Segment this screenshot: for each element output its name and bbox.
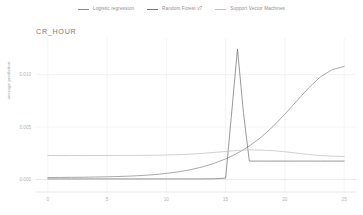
x-tick-label: 20 <box>282 197 288 202</box>
x-tick-label: 10 <box>164 197 170 202</box>
series-line-support-vector-machines <box>48 150 344 157</box>
y-tick-label: 0.000 <box>20 177 32 182</box>
y-tick-label: 0.010 <box>20 72 32 77</box>
series-line-random-forest-v7 <box>48 49 344 179</box>
y-tick-labels: 0.0000.0050.010 <box>20 72 32 182</box>
x-tick-labels: 0510152025 <box>47 197 348 202</box>
gridlines <box>36 38 356 192</box>
series-lines <box>48 49 344 179</box>
y-tick-label: 0.005 <box>20 125 32 130</box>
x-tick-label: 15 <box>223 197 229 202</box>
x-tick-label: 0 <box>47 197 50 202</box>
x-tick-label: 25 <box>342 197 348 202</box>
plot-area: 0.0000.0050.010 0510152025 <box>0 0 363 215</box>
chart-container: Logistic regression Random Forest v7 Sup… <box>0 0 363 215</box>
x-tick-label: 5 <box>106 197 109 202</box>
